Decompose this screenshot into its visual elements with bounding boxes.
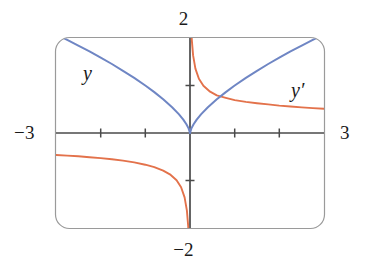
x-min-label: −3	[14, 122, 35, 144]
curve-label-y-prime: y′	[291, 79, 304, 102]
graph-figure: 2 −2 −3 3 y y′	[0, 0, 379, 274]
curve-label-y: y	[83, 62, 92, 85]
x-max-label: 3	[340, 122, 350, 144]
y-min-label: −2	[0, 239, 373, 261]
y-max-label: 2	[0, 8, 373, 30]
plot-canvas	[0, 0, 379, 274]
